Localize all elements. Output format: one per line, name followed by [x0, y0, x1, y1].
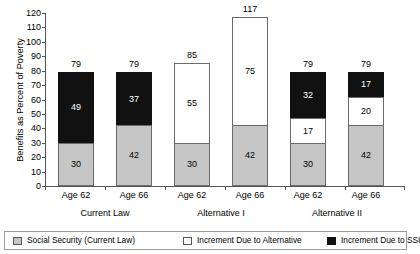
bar-segment-value: 42 [361, 151, 371, 160]
bar-3[interactable]: 5530 [174, 63, 210, 186]
bar-segment: 55 [174, 63, 210, 142]
bar-segment: 37 [116, 72, 152, 125]
y-axis-tick-mark [42, 42, 45, 43]
y-axis-tick-label: 20 [31, 153, 41, 162]
y-axis-tick-mark [42, 128, 45, 129]
bar-segment-value: 37 [129, 95, 139, 104]
bar-segment-value: 30 [303, 160, 313, 169]
y-axis-tick-mark [42, 56, 45, 57]
bar-total-label: 79 [290, 60, 326, 69]
plot-area: 1201101009080706050403020100 49307937427… [45, 13, 405, 186]
bar-segment: 17 [348, 72, 384, 97]
bar-segment-value: 42 [129, 151, 139, 160]
bar-segment-value: 32 [303, 91, 313, 100]
y-axis-tick-label: 40 [31, 124, 41, 133]
legend-label: Social Security (Current Law) [27, 236, 135, 245]
bar-segment-value: 20 [361, 107, 371, 116]
chart-legend: Social Security (Current Law)Increment D… [4, 231, 407, 250]
y-axis-tick-label: 110 [27, 23, 41, 32]
legend-swatch-icon [13, 237, 22, 245]
bar-segment: 17 [290, 118, 326, 143]
y-axis-tick-label: 80 [31, 66, 41, 75]
legend-item-3[interactable]: Increment Due to SSI [327, 236, 420, 245]
y-axis-tick-mark [42, 172, 45, 173]
bar-total-label: 85 [174, 51, 210, 60]
x-axis-label-6: Age 66 [331, 190, 401, 200]
group-label-2: Alternative I [156, 208, 286, 218]
y-axis-tick-label: 90 [31, 52, 41, 61]
bar-segment-value: 30 [187, 160, 197, 169]
y-axis-tick-label: 30 [31, 138, 41, 147]
y-axis-tick-mark [42, 100, 45, 101]
y-axis-tick-label: 10 [31, 167, 41, 176]
bar-segment: 75 [232, 17, 268, 125]
group-label-3: Alternative II [272, 208, 402, 218]
bar-segment: 49 [58, 72, 94, 143]
y-axis-line [45, 13, 46, 186]
legend-swatch-icon [183, 237, 192, 245]
y-axis-tick-mark [42, 13, 45, 14]
bar-segment-value: 17 [303, 127, 313, 136]
y-axis-tick-label: 50 [31, 109, 41, 118]
y-axis-tick-label: 100 [26, 37, 41, 46]
bar-segment: 30 [290, 143, 326, 186]
bar-segment: 30 [174, 143, 210, 186]
y-axis-tick-mark [42, 114, 45, 115]
y-axis-tick-label: 70 [31, 81, 41, 90]
bar-total-label: 79 [58, 60, 94, 69]
bar-2[interactable]: 3742 [116, 72, 152, 186]
group-label-1: Current Law [40, 208, 170, 218]
bar-total-label: 79 [348, 60, 384, 69]
y-axis-tick-mark [42, 143, 45, 144]
x-axis-tick-mark [404, 186, 405, 190]
bar-total-label: 79 [116, 60, 152, 69]
bar-6[interactable]: 172042 [348, 72, 384, 186]
bar-segment-value: 75 [245, 67, 255, 76]
legend-item-2[interactable]: Increment Due to Alternative [183, 236, 302, 245]
y-axis-title: Benefits as Percent of Poverty [15, 10, 25, 190]
y-axis-tick-label: 60 [31, 95, 41, 104]
bar-segment: 42 [116, 125, 152, 186]
y-axis-tick-mark [42, 71, 45, 72]
bar-segment-value: 42 [245, 151, 255, 160]
bar-1[interactable]: 4930 [58, 72, 94, 186]
legend-swatch-icon [327, 237, 336, 245]
bar-segment-value: 17 [361, 80, 371, 89]
bar-segment-value: 30 [71, 160, 81, 169]
bar-segment: 42 [348, 125, 384, 186]
y-axis-tick-mark [42, 85, 45, 86]
bar-segment-value: 55 [187, 99, 197, 108]
bar-4[interactable]: 7542 [232, 17, 268, 186]
bar-segment: 32 [290, 72, 326, 118]
bar-segment: 42 [232, 125, 268, 186]
y-axis-tick-mark [42, 27, 45, 28]
y-axis-tick-label: 120 [26, 9, 41, 18]
legend-label: Increment Due to Alternative [197, 236, 302, 245]
y-axis-tick-mark [42, 157, 45, 158]
bar-5[interactable]: 321730 [290, 72, 326, 186]
bar-segment-value: 49 [71, 103, 81, 112]
legend-item-1[interactable]: Social Security (Current Law) [13, 236, 135, 245]
bar-total-label: 117 [232, 5, 268, 14]
bar-segment: 30 [58, 143, 94, 186]
bar-segment: 20 [348, 97, 384, 126]
legend-label: Increment Due to SSI [341, 236, 420, 245]
